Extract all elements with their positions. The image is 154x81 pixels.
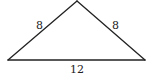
left-side-label: 8 [36, 19, 43, 32]
base-label: 12 [70, 63, 84, 76]
right-side-label: 8 [112, 19, 119, 32]
triangle-diagram: 8 8 12 [0, 0, 154, 81]
right-side-edge [77, 1, 145, 60]
